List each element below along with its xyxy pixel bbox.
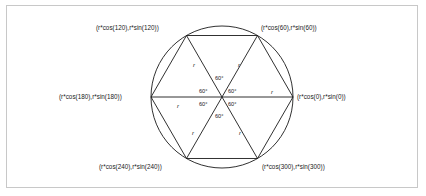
label-angle-lower-right: 60°	[228, 102, 236, 108]
label-radius-lower-right: r	[239, 130, 241, 136]
label-vertex-60: (r*cos(60),r*sin(60))	[261, 25, 317, 31]
label-radius-upper-right: r	[238, 62, 240, 68]
label-radius-right: r	[271, 89, 273, 95]
label-radius-lower-left: r	[192, 130, 194, 136]
label-angle-bottom: 60°	[215, 114, 223, 120]
label-vertex-120: (r*cos(120),r*sin(120))	[96, 25, 159, 31]
label-angle-upper-right: 60°	[228, 89, 236, 95]
figure-root: (r*cos(120),r*sin(120))(r*cos(60),r*sin(…	[0, 0, 426, 196]
label-angle-lower-left: 60°	[199, 102, 207, 108]
label-angle-upper-left: 60°	[199, 89, 207, 95]
label-vertex-300: (r*cos(300),r*sin(300))	[262, 164, 325, 170]
label-vertex-0: (r*cos(0),r*sin(0))	[297, 94, 346, 100]
label-radius-left: r	[177, 103, 179, 109]
label-angle-top: 60°	[215, 76, 223, 82]
label-vertex-240: (r*cos(240),r*sin(240))	[99, 164, 162, 170]
label-radius-upper-left: r	[193, 62, 195, 68]
label-vertex-180: (r*cos(180),r*sin(180))	[59, 94, 122, 100]
